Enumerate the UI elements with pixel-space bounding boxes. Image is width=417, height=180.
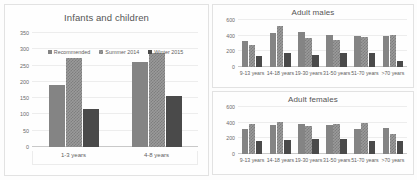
bar[interactable] [270, 33, 277, 67]
bar-groups [238, 20, 407, 67]
legend-label-winter-2015: Winter 2015 [154, 49, 183, 55]
chart-panel-adult-males: Adult males 02004006009-13 years14-18 ye… [212, 4, 414, 88]
bar-groups [238, 107, 407, 154]
y-axis-tick-label: 200 [20, 79, 29, 85]
bar-group [323, 20, 350, 67]
x-axis-tick-label: 9-13 years [239, 157, 266, 163]
bar[interactable] [132, 62, 148, 147]
right-chart-column: Adult males 02004006009-13 years14-18 ye… [212, 4, 414, 176]
bar[interactable] [361, 123, 368, 154]
bar[interactable] [312, 55, 319, 67]
x-axis-tick-label: 14-18 years [267, 70, 294, 76]
y-axis-tick-label: 200 [226, 48, 235, 54]
bar[interactable] [340, 53, 347, 67]
x-axis-tick-label: 19-30 years [295, 70, 322, 76]
chart-panel-adult-females: Adult females 02004006009-13 years14-18 … [212, 91, 414, 175]
x-axis-tick-label: >70 years [379, 70, 406, 76]
bar[interactable] [312, 139, 319, 154]
bar-group [267, 20, 294, 67]
bar[interactable] [284, 140, 291, 154]
bar-group [239, 107, 266, 154]
y-axis-tick-label: 50 [23, 128, 29, 134]
legend-swatch-icon-winter-2015 [148, 50, 152, 54]
legend-item-recommended: Recommended [48, 49, 91, 55]
bar-group [267, 107, 294, 154]
bar[interactable] [326, 125, 333, 154]
bar[interactable] [270, 125, 277, 154]
bar[interactable] [249, 45, 256, 67]
bar[interactable] [397, 61, 404, 67]
bar[interactable] [361, 37, 368, 67]
bar[interactable] [66, 58, 82, 147]
bar[interactable] [166, 96, 182, 147]
bar-group [239, 20, 266, 67]
bar[interactable] [242, 41, 249, 67]
bar[interactable] [277, 122, 284, 154]
x-axis-tick-label: 31-50 years [323, 70, 350, 76]
bar[interactable] [256, 56, 263, 67]
x-axis-tick-label: 4-8 years [127, 152, 187, 158]
bar[interactable] [305, 126, 312, 154]
y-axis-tick-label: 300 [20, 46, 29, 52]
bar[interactable] [369, 141, 376, 154]
y-axis-tick-label: 0 [232, 64, 235, 70]
bar[interactable] [83, 109, 99, 147]
legend-label-summer-2014: Summer 2014 [105, 49, 139, 55]
bar[interactable] [340, 139, 347, 154]
y-axis-tick-label: 250 [20, 63, 29, 69]
bar[interactable] [390, 134, 397, 154]
bar[interactable] [333, 124, 340, 154]
x-axis-tick-label: 19-30 years [295, 157, 322, 163]
chart-title-infants: Infants and children [5, 12, 208, 23]
y-axis-tick-label: 200 [226, 135, 235, 141]
bar-group [323, 107, 350, 154]
x-axis-labels: 1-3 years4-8 years [32, 152, 198, 158]
bar[interactable] [298, 32, 305, 67]
chart-title-adult-females: Adult females [213, 95, 413, 104]
bar-group [379, 107, 406, 154]
legend-item-summer-2014: Summer 2014 [99, 49, 139, 55]
bar[interactable] [149, 53, 165, 147]
bar[interactable] [354, 36, 361, 67]
bar[interactable] [256, 141, 263, 154]
x-axis-tick-label: 51-70 years [351, 157, 378, 163]
bar[interactable] [383, 36, 390, 67]
bar[interactable] [354, 129, 361, 154]
bar[interactable] [277, 26, 284, 67]
bar-group [351, 107, 378, 154]
bar-group [295, 20, 322, 67]
x-axis-tick-label: 14-18 years [267, 157, 294, 163]
legend-label-recommended: Recommended [54, 49, 91, 55]
bar[interactable] [369, 53, 376, 67]
bar[interactable] [284, 53, 291, 67]
bar[interactable] [298, 124, 305, 154]
bar[interactable] [49, 85, 65, 147]
bar[interactable] [397, 141, 404, 154]
figure-canvas: Infants and children Recommended Summer … [0, 0, 417, 180]
chart-title-adult-males: Adult males [213, 8, 413, 17]
bar[interactable] [383, 128, 390, 154]
y-axis-tick-label: 600 [226, 104, 235, 110]
x-axis-tick-label: 9-13 years [239, 70, 266, 76]
bar[interactable] [305, 38, 312, 67]
y-axis-tick-label: 350 [20, 30, 29, 36]
legend-swatch-icon-recommended [48, 50, 52, 54]
legend-item-winter-2015: Winter 2015 [148, 49, 183, 55]
y-axis-tick-label: 400 [226, 33, 235, 39]
bar[interactable] [249, 124, 256, 154]
bar[interactable] [242, 129, 249, 154]
y-axis-tick-label: 150 [20, 95, 29, 101]
bar[interactable] [326, 35, 333, 68]
x-axis-labels: 9-13 years14-18 years19-30 years31-50 ye… [238, 157, 407, 163]
y-axis-tick-label: 600 [226, 17, 235, 23]
bar-group [379, 20, 406, 67]
y-axis-tick-label: 100 [20, 111, 29, 117]
x-axis-tick-label: 31-50 years [323, 157, 350, 163]
chart-legend: Recommended Summer 2014 Winter 2015 [35, 49, 196, 55]
bar[interactable] [333, 40, 340, 67]
y-axis-tick-label: 0 [232, 151, 235, 157]
bar[interactable] [390, 35, 397, 68]
x-axis-tick-label: 1-3 years [44, 152, 104, 158]
legend-swatch-icon-summer-2014 [99, 50, 103, 54]
x-axis-labels: 9-13 years14-18 years19-30 years31-50 ye… [238, 70, 407, 76]
